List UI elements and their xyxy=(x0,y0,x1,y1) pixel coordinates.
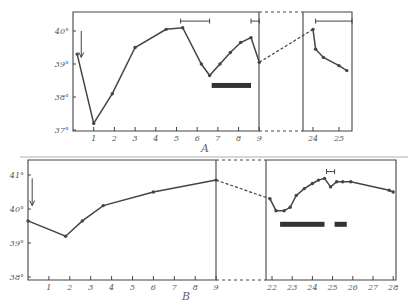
x-tick-label: 22 xyxy=(266,283,277,292)
temperature-line-late xyxy=(313,29,347,70)
y-tick-label: 40° xyxy=(54,27,69,36)
data-point xyxy=(314,47,317,50)
chart-panel-B: 38°39°40°41°12345678922232425262728B xyxy=(9,160,398,303)
axis-frame-right xyxy=(266,160,396,280)
data-point xyxy=(75,52,78,55)
temperature-line-late xyxy=(270,178,393,210)
x-tick-label: 6 xyxy=(151,283,156,292)
x-tick-label: 25 xyxy=(333,134,344,143)
data-point xyxy=(329,185,332,188)
data-point xyxy=(229,51,232,54)
data-point xyxy=(303,187,306,190)
temperature-charts: 37°38°39°40°1234567892425A38°39°40°41°12… xyxy=(0,0,408,305)
x-tick-label: 3 xyxy=(88,283,93,292)
x-tick-label: 6 xyxy=(195,134,200,143)
y-tick-label: 38° xyxy=(55,93,69,102)
data-point xyxy=(337,64,340,67)
data-point xyxy=(181,26,184,29)
x-tick-label: 2 xyxy=(66,283,72,292)
y-tick-label: 39° xyxy=(55,60,69,69)
data-point xyxy=(249,36,252,39)
data-point xyxy=(341,180,344,183)
axis-frame-right xyxy=(303,12,352,131)
data-point xyxy=(133,46,136,49)
data-point xyxy=(392,190,395,193)
data-point xyxy=(164,28,167,31)
x-tick-label: 28 xyxy=(387,283,398,292)
x-tick-label: 26 xyxy=(347,283,358,292)
x-tick-label: 24 xyxy=(307,134,318,143)
y-tick-label: 40° xyxy=(9,205,24,214)
data-point xyxy=(258,61,261,64)
data-point xyxy=(102,204,105,207)
x-tick-label: 1 xyxy=(46,283,51,292)
data-point xyxy=(208,74,211,77)
x-tick-label: 24 xyxy=(306,283,317,292)
data-point xyxy=(214,178,217,181)
data-point xyxy=(239,41,242,44)
data-point xyxy=(26,219,29,222)
data-point xyxy=(274,209,277,212)
x-tick-label: 7 xyxy=(215,134,221,143)
axis-frame-left xyxy=(28,160,216,280)
data-point xyxy=(81,219,84,222)
data-point xyxy=(288,206,291,209)
x-tick-label: 1 xyxy=(91,134,96,143)
data-point xyxy=(349,180,352,183)
temperature-line-break xyxy=(216,180,270,199)
chart-panel-A: 37°38°39°40°1234567892425A xyxy=(54,12,352,155)
data-point xyxy=(152,190,155,193)
y-tick-label: 41° xyxy=(9,171,24,180)
chart-caption: A xyxy=(200,142,209,155)
thick-bar xyxy=(212,83,251,88)
data-point xyxy=(387,189,390,192)
thick-bar xyxy=(335,222,347,227)
temperature-line xyxy=(28,180,216,236)
x-tick-label: 9 xyxy=(257,134,262,143)
x-tick-label: 2 xyxy=(111,134,117,143)
x-tick-label: 8 xyxy=(193,283,198,292)
x-tick-label: 8 xyxy=(236,134,241,143)
x-tick-label: 4 xyxy=(152,134,158,143)
data-point xyxy=(282,209,285,212)
data-point xyxy=(218,62,221,65)
x-tick-label: 27 xyxy=(367,283,379,292)
x-tick-label: 23 xyxy=(286,283,297,292)
data-point xyxy=(64,235,67,238)
data-point xyxy=(311,28,314,31)
x-tick-label: 25 xyxy=(327,283,338,292)
data-point xyxy=(311,182,314,185)
thick-bar xyxy=(280,222,324,227)
data-point xyxy=(323,177,326,180)
y-tick-label: 37° xyxy=(55,126,69,135)
data-point xyxy=(268,197,271,200)
x-tick-label: 9 xyxy=(214,283,219,292)
chart-caption: B xyxy=(181,290,190,303)
y-tick-label: 38° xyxy=(10,273,24,282)
data-point xyxy=(92,122,95,125)
x-tick-label: 5 xyxy=(130,283,135,292)
x-tick-label: 4 xyxy=(108,283,114,292)
data-point xyxy=(335,180,338,183)
temperature-line xyxy=(77,28,259,124)
data-point xyxy=(111,92,114,95)
data-point xyxy=(317,178,320,181)
x-tick-label: 3 xyxy=(133,134,138,143)
temperature-line-break xyxy=(259,29,313,62)
data-point xyxy=(322,56,325,59)
data-point xyxy=(200,62,203,65)
x-tick-label: 5 xyxy=(174,134,179,143)
data-point xyxy=(295,194,298,197)
x-tick-label: 7 xyxy=(172,283,178,292)
y-tick-label: 39° xyxy=(10,239,24,248)
data-point xyxy=(345,69,348,72)
